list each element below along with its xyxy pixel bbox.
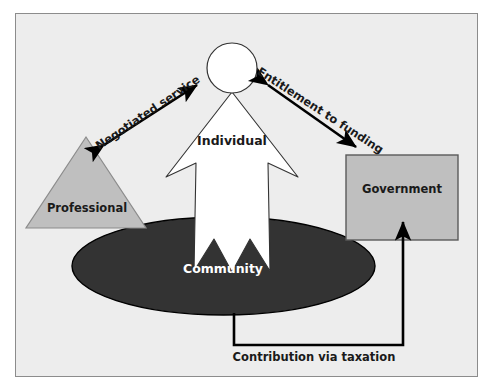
node-label-individual: Individual — [197, 135, 267, 148]
connector-label-contribution-via-taxation: Contribution via taxation — [233, 352, 396, 364]
node-label-professional: Professional — [47, 203, 127, 215]
diagram-page: Individual Community Professional Govern… — [0, 0, 495, 392]
node-individual-head[interactable] — [207, 43, 257, 93]
node-label-government: Government — [362, 184, 442, 196]
node-label-community: Community — [183, 263, 263, 276]
